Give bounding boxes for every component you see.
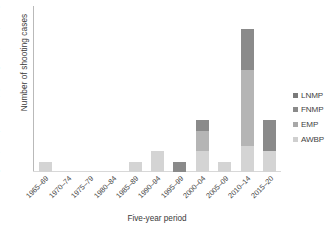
bar-slot <box>214 6 236 172</box>
stacked-bar[interactable] <box>129 162 142 172</box>
legend-label: LNMP <box>301 91 323 100</box>
legend-item-awbp[interactable]: AWBP <box>293 132 334 147</box>
bar-segment-awbp[interactable] <box>39 162 52 172</box>
legend-swatch-icon <box>293 122 298 127</box>
x-tick-slot: 2015–20 <box>259 172 281 216</box>
bar-segment-fnmp[interactable] <box>263 120 276 151</box>
chart-legend: LNMPFNMPEMPAWBP <box>293 88 334 146</box>
legend-item-emp[interactable]: EMP <box>293 117 334 132</box>
bar-segment-fnmp[interactable] <box>196 120 209 130</box>
x-axis-tick-labels: 1965–691970–741975–791980–841985–891990–… <box>34 172 281 216</box>
bar-slot <box>191 6 213 172</box>
legend-label: AWBP <box>301 135 324 144</box>
stacked-bar[interactable] <box>151 151 164 172</box>
bar-series-container <box>34 6 281 172</box>
stacked-bar[interactable] <box>263 120 276 172</box>
stacked-bar[interactable] <box>173 162 186 172</box>
bar-slot <box>56 6 78 172</box>
bar-segment-emp[interactable] <box>241 70 254 146</box>
bar-segment-awbp[interactable] <box>129 162 142 172</box>
bar-slot <box>34 6 56 172</box>
bar-segment-awbp[interactable] <box>241 146 254 172</box>
y-axis-title: Number of shooting cases <box>20 0 29 133</box>
bar-segment-fnmp[interactable] <box>241 29 254 70</box>
legend-swatch-icon <box>293 107 298 112</box>
plot-area <box>33 6 281 172</box>
bar-segment-fnmp[interactable] <box>173 162 186 172</box>
chart-figure: Number of shooting cases 0247810121416 1… <box>0 0 334 231</box>
bar-slot <box>101 6 123 172</box>
stacked-bar[interactable] <box>196 120 209 172</box>
stacked-bar[interactable] <box>218 162 231 172</box>
bar-segment-awbp[interactable] <box>151 151 164 172</box>
bar-segment-awbp[interactable] <box>263 151 276 172</box>
bar-slot <box>79 6 101 172</box>
bar-slot <box>169 6 191 172</box>
legend-swatch-icon <box>293 93 298 98</box>
legend-item-lnmp[interactable]: LNMP <box>293 88 334 103</box>
bar-segment-awbp[interactable] <box>218 162 231 172</box>
x-axis-tick: 1965–69 <box>24 174 50 200</box>
legend-swatch-icon <box>293 137 298 142</box>
bar-segment-awbp[interactable] <box>196 151 209 172</box>
x-axis-title: Five-year period <box>33 214 281 223</box>
legend-item-fnmp[interactable]: FNMP <box>293 103 334 118</box>
bar-slot <box>146 6 168 172</box>
stacked-bar[interactable] <box>39 162 52 172</box>
legend-label: EMP <box>301 120 318 129</box>
bar-slot <box>124 6 146 172</box>
bar-slot <box>236 6 258 172</box>
bar-segment-emp[interactable] <box>196 131 209 152</box>
stacked-bar[interactable] <box>241 29 254 172</box>
legend-label: FNMP <box>301 105 324 114</box>
bar-slot <box>259 6 281 172</box>
